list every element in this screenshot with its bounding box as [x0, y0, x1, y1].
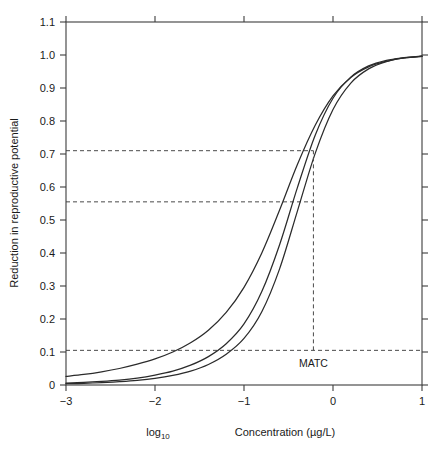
dose-response-figure: −3−2−10100.10.20.30.40.50.60.70.80.91.01… — [0, 0, 446, 454]
y-tick-label-5: 0.5 — [40, 214, 55, 226]
y-tick-label-4: 0.4 — [40, 247, 55, 259]
y-tick-label-7: 0.7 — [40, 148, 55, 160]
guide-lines-group — [66, 151, 422, 351]
axis-ticks-group — [60, 16, 428, 391]
x-tick-label-3: 0 — [330, 395, 336, 407]
y-tick-label-8: 0.8 — [40, 115, 55, 127]
y-tick-label-9: 0.9 — [40, 82, 55, 94]
annotation-label-matc: MATC — [299, 357, 328, 369]
y-tick-label-0: 0 — [49, 379, 55, 391]
x-axis-title-concentration: Concentration (µg/L) — [235, 426, 336, 438]
annotations-group: MATC — [299, 151, 328, 369]
x-tick-label-0: −3 — [60, 395, 73, 407]
series-curve-middle — [66, 56, 422, 383]
y-tick-label-2: 0.2 — [40, 313, 55, 325]
y-tick-label-6: 0.6 — [40, 181, 55, 193]
x-tick-label-4: 1 — [419, 395, 425, 407]
curves-group — [66, 56, 422, 384]
chart-canvas: −3−2−10100.10.20.30.40.50.60.70.80.91.01… — [0, 0, 446, 454]
x-tick-label-1: −2 — [149, 395, 162, 407]
series-curve-left — [66, 56, 422, 376]
y-tick-label-10: 1.0 — [40, 49, 55, 61]
plot-frame — [66, 22, 422, 385]
y-tick-label-3: 0.3 — [40, 280, 55, 292]
y-tick-label-11: 1.1 — [40, 16, 55, 28]
series-curve-right — [66, 56, 422, 383]
tick-labels-group: −3−2−10100.10.20.30.40.50.60.70.80.91.01… — [40, 16, 425, 407]
y-axis-title: Reduction in reproductive potential — [8, 118, 20, 287]
x-axis-title-log: log10 — [146, 426, 170, 441]
y-tick-label-1: 0.1 — [40, 346, 55, 358]
x-tick-label-2: −1 — [238, 395, 251, 407]
